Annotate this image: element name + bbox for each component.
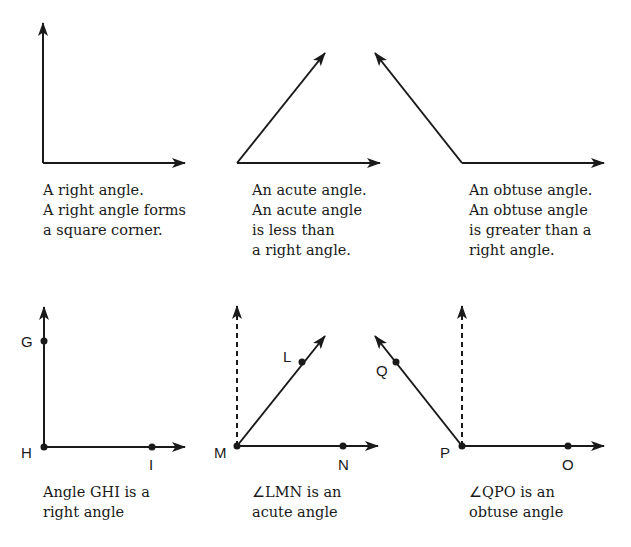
acute-angle-diagonal-ray bbox=[237, 53, 325, 163]
acute-angle-figure bbox=[237, 53, 380, 163]
caption-line: acute angle bbox=[252, 502, 341, 522]
label-o: O bbox=[562, 456, 574, 473]
point-q bbox=[393, 359, 400, 366]
caption-line: An obtuse angle bbox=[469, 200, 592, 220]
point-p bbox=[459, 443, 466, 450]
angle-lmn-figure: L M N bbox=[214, 306, 378, 473]
right-angle-caption: A right angle. A right angle forms a squ… bbox=[43, 180, 186, 240]
caption-line: a square corner. bbox=[43, 220, 186, 240]
obtuse-angle-diagonal-ray bbox=[375, 53, 462, 163]
caption-line: A right angle. bbox=[43, 180, 186, 200]
label-g: G bbox=[21, 333, 33, 350]
caption-line: is less than bbox=[252, 220, 367, 240]
caption-line: ∠QPO is an bbox=[469, 482, 563, 502]
angle-symbol-icon: ∠ bbox=[469, 484, 482, 500]
caption-line: right angle bbox=[43, 502, 150, 522]
point-g bbox=[41, 338, 48, 345]
point-o bbox=[565, 443, 572, 450]
obtuse-angle-caption: An obtuse angle. An obtuse angle is grea… bbox=[469, 180, 592, 260]
caption-text: LMN is an bbox=[265, 484, 341, 500]
label-m: M bbox=[214, 444, 227, 461]
angle-ghi-caption: Angle GHI is a right angle bbox=[43, 482, 150, 522]
caption-line: is greater than a bbox=[469, 220, 592, 240]
caption-line: obtuse angle bbox=[469, 502, 563, 522]
angle-qpo-figure: Q P O bbox=[375, 306, 604, 473]
label-q: Q bbox=[376, 362, 388, 379]
point-n bbox=[340, 443, 347, 450]
point-l bbox=[299, 359, 306, 366]
caption-line: An acute angle bbox=[252, 200, 367, 220]
caption-line: An obtuse angle. bbox=[469, 180, 592, 200]
label-i: I bbox=[149, 456, 153, 473]
caption-line: a right angle. bbox=[252, 240, 367, 260]
acute-angle-caption: An acute angle. An acute angle is less t… bbox=[252, 180, 367, 260]
label-h: H bbox=[21, 444, 32, 461]
ray-pq bbox=[375, 336, 462, 446]
angle-qpo-caption: ∠QPO is an obtuse angle bbox=[469, 482, 563, 522]
angle-lmn-caption: ∠LMN is an acute angle bbox=[252, 482, 341, 522]
label-l: L bbox=[283, 348, 291, 365]
caption-line: Angle GHI is a bbox=[43, 482, 150, 502]
point-m bbox=[234, 443, 241, 450]
angle-ghi-figure: G H I bbox=[21, 307, 185, 473]
angle-symbol-icon: ∠ bbox=[252, 484, 265, 500]
ray-ml bbox=[237, 336, 325, 446]
caption-line: A right angle forms bbox=[43, 200, 186, 220]
right-angle-figure bbox=[43, 23, 185, 163]
point-h bbox=[41, 444, 48, 451]
point-i bbox=[149, 444, 156, 451]
label-n: N bbox=[338, 456, 349, 473]
obtuse-angle-figure bbox=[375, 53, 604, 163]
caption-line: ∠LMN is an bbox=[252, 482, 341, 502]
angle-diagram: G H I L M N Q P O bbox=[0, 0, 631, 547]
caption-text: QPO is an bbox=[482, 484, 555, 500]
caption-line: An acute angle. bbox=[252, 180, 367, 200]
label-p: P bbox=[440, 444, 450, 461]
caption-line: right angle. bbox=[469, 240, 592, 260]
